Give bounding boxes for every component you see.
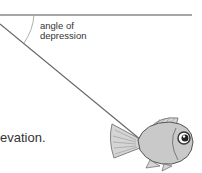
line-of-sight [0, 24, 141, 140]
caption-text: evation. [0, 130, 46, 145]
angle-of-depression-label: angle of depression [40, 21, 86, 41]
diagram-canvas [0, 0, 202, 173]
angle-label-line-2: depression [40, 31, 86, 41]
angle-arc [24, 15, 34, 43]
